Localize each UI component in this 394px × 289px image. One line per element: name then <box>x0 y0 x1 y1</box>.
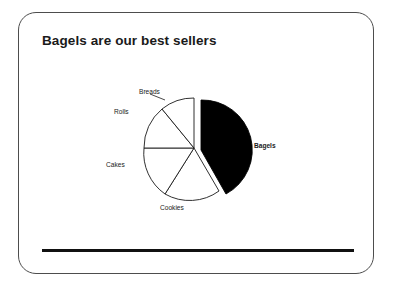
slide-root: Bagels are our best sellers Breads Rolls… <box>0 0 394 289</box>
pie-label-breads: Breads <box>139 89 160 96</box>
pie-label-bagels: Bagels <box>254 143 276 150</box>
pie-chart-svg <box>95 78 310 223</box>
pie-label-rolls: Rolls <box>114 109 129 116</box>
pie-label-cookies: Cookies <box>160 205 184 212</box>
pie-chart: Breads Rolls Cakes Cookies Bagels <box>95 78 310 223</box>
bottom-rule-divider <box>42 249 354 252</box>
pie-label-cakes: Cakes <box>106 162 125 169</box>
page-title: Bagels are our best sellers <box>42 33 217 48</box>
